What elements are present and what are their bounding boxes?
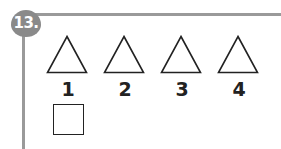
- triangle-icon: [160, 35, 202, 74]
- question-frame-left: [22, 36, 25, 149]
- triangle-icon: [217, 35, 259, 74]
- question-number-badge: 13.: [11, 10, 41, 37]
- triangle-label-2: 2: [105, 78, 145, 100]
- triangle-label-3: 3: [162, 78, 202, 100]
- answer-box[interactable]: [53, 104, 84, 135]
- triangle-label-1: 1: [48, 78, 88, 100]
- triangle-icon: [46, 35, 88, 74]
- question-frame-top: [32, 13, 281, 16]
- triangle-label-4: 4: [219, 78, 259, 100]
- triangle-icon: [103, 35, 145, 74]
